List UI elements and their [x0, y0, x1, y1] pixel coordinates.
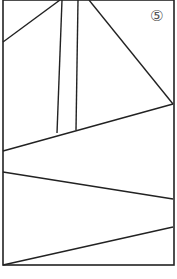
- diagram-line-6: [3, 172, 173, 199]
- diagram-line-2: [57, 0, 62, 133]
- line-diagram: [0, 0, 177, 279]
- diagram-line-5: [3, 104, 173, 151]
- diagram-lines: [3, 0, 173, 265]
- diagram-line-1: [3, 0, 60, 42]
- frame-rectangle: [3, 0, 174, 265]
- figure-number-label: ⑤: [150, 9, 163, 24]
- diagram-line-3: [76, 0, 78, 130]
- diagram-line-7: [3, 227, 173, 265]
